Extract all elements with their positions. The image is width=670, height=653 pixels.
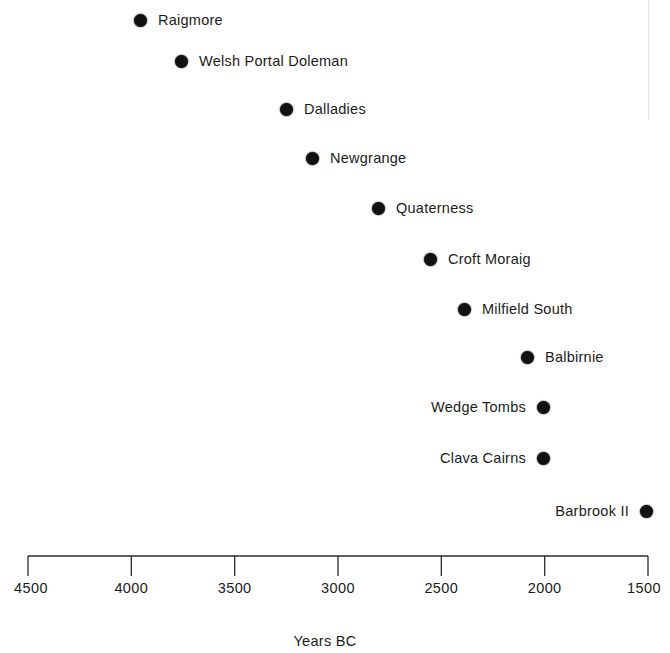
data-point-marker-dot <box>458 303 471 316</box>
data-point-label: Croft Moraig <box>448 252 531 267</box>
data-point: Clava Cairns <box>0 445 550 471</box>
data-point-marker-dot <box>537 401 550 414</box>
x-axis-title-text: Years BC <box>293 633 356 649</box>
x-axis-tick-label: 3000 <box>321 580 355 596</box>
data-point-marker-dot <box>537 452 550 465</box>
data-point: Welsh Portal Doleman <box>175 48 348 74</box>
chart-container: RaigmoreWelsh Portal DolemanDalladiesNew… <box>0 0 670 653</box>
data-point: Barbrook II <box>0 498 653 524</box>
data-point-marker-dot <box>424 253 437 266</box>
x-axis-tick-label: 3500 <box>218 580 252 596</box>
x-axis-tick-label: 4000 <box>114 580 148 596</box>
data-point: Milfield South <box>458 296 573 322</box>
data-point-marker-dot <box>134 14 147 27</box>
data-point-marker-dot <box>175 55 188 68</box>
data-point-label: Barbrook II <box>555 504 629 519</box>
x-axis-tick-label: 2000 <box>528 580 562 596</box>
x-axis-tick-label: 1500 <box>627 580 661 596</box>
data-point-marker-dot <box>640 505 653 518</box>
data-point: Raigmore <box>134 7 223 33</box>
data-point: Quaterness <box>372 195 473 221</box>
data-point-label: Wedge Tombs <box>431 400 526 415</box>
data-point-label: Balbirnie <box>545 350 604 365</box>
data-point-marker-dot <box>280 103 293 116</box>
x-axis-title: Years BC <box>0 633 670 649</box>
data-point: Croft Moraig <box>424 246 531 272</box>
data-point: Wedge Tombs <box>0 394 550 420</box>
data-point-label: Quaterness <box>396 201 473 216</box>
data-point-marker-dot <box>306 152 319 165</box>
data-point: Dalladies <box>280 96 366 122</box>
x-axis-tick-label: 4500 <box>14 580 48 596</box>
data-point-label: Dalladies <box>304 102 366 117</box>
data-point: Newgrange <box>306 145 406 171</box>
plot-area: RaigmoreWelsh Portal DolemanDalladiesNew… <box>0 0 670 556</box>
data-point-marker-dot <box>372 202 385 215</box>
data-point-label: Welsh Portal Doleman <box>199 54 348 69</box>
x-axis-tick-label: 2500 <box>424 580 458 596</box>
data-point-marker-dot <box>521 351 534 364</box>
data-point-label: Milfield South <box>482 302 573 317</box>
data-point-label: Clava Cairns <box>440 451 526 466</box>
x-axis-tick-labels: 4500400035003000250020001500 <box>0 580 670 606</box>
data-point: Balbirnie <box>521 344 604 370</box>
data-point-label: Raigmore <box>158 13 223 28</box>
data-point-label: Newgrange <box>330 151 406 166</box>
